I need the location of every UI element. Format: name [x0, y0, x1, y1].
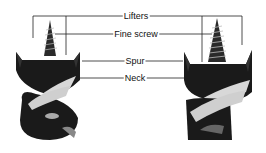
label-lifters: Lifters — [123, 11, 150, 21]
label-neck: Neck — [124, 73, 147, 83]
left-auger-bit — [16, 20, 80, 140]
label-fine-screw: Fine screw — [113, 29, 159, 39]
right-fine-screw — [208, 18, 226, 62]
auger-bit-diagram: Lifters Fine screw Spur Neck — [0, 0, 266, 153]
label-spur: Spur — [124, 56, 145, 66]
